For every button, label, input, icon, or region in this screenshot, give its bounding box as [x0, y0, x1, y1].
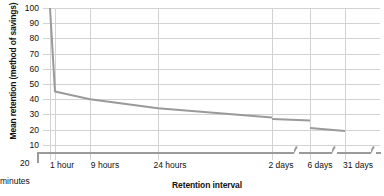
y-tick-label: 30: [30, 110, 39, 119]
x-axis-line: [337, 152, 371, 154]
x-tick-label: 31 days: [343, 160, 373, 170]
x-tick-label: 1 hour: [50, 160, 74, 170]
forgetting-curve-chart: Mean retention (method of savings) 10090…: [0, 0, 384, 196]
y-tick-label: 20: [30, 125, 39, 134]
x-axis-line: [299, 152, 332, 154]
y-axis-title: Mean retention (method of savings): [8, 0, 18, 146]
curve-segment: [50, 8, 272, 117]
y-tick-label: 100: [25, 4, 39, 13]
axis-origin-corner: [37, 152, 45, 163]
origin-value: 20: [20, 158, 29, 168]
curve-segment: [310, 128, 345, 131]
axis-break-mark: [371, 146, 378, 154]
y-tick-label: 90: [30, 19, 39, 28]
x-tick-label: 9 hours: [91, 160, 119, 170]
y-tick-label: 50: [30, 80, 39, 89]
retention-curve: [43, 8, 380, 160]
axis-break-mark: [332, 146, 339, 154]
y-tick-label: 40: [30, 95, 39, 104]
axis-break-mark: [294, 146, 301, 154]
x-tick-label: 24 hours: [153, 160, 186, 170]
y-tick-label: 60: [30, 65, 39, 74]
y-tick-label: 80: [30, 34, 39, 43]
y-tick-label: 10: [30, 141, 39, 150]
plot-area: 100908070605040302010: [43, 8, 380, 160]
y-tick-label: 70: [30, 49, 39, 58]
x-tick-label: 6 days: [307, 160, 332, 170]
x-axis-title: Retention interval: [0, 180, 384, 190]
x-axis-line: [43, 152, 294, 154]
x-tick-label: 2 days: [268, 160, 293, 170]
curve-segment: [272, 119, 310, 121]
